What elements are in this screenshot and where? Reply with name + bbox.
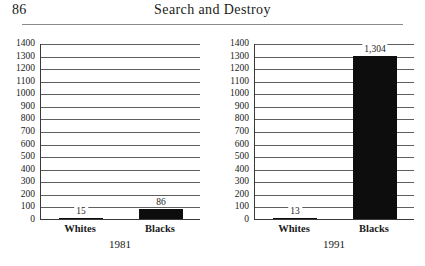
y-tick-label: 1000: [215, 89, 249, 99]
header-divider: [22, 24, 403, 25]
y-tick-label: 700: [1, 127, 35, 137]
chart-1981: 1400130012001100100090080070060050040030…: [2, 44, 207, 266]
y-axis-1991: 1400130012001100100090080070060050040030…: [216, 44, 252, 220]
plot-area-1981: 1586: [40, 44, 200, 220]
y-tick-label: 500: [215, 152, 249, 162]
plot-area-1991: 131,304: [254, 44, 414, 220]
y-tick-label: 600: [1, 140, 35, 150]
category-labels-1991: WhitesBlacks: [254, 222, 414, 238]
running-head-title: Search and Destroy: [0, 2, 425, 18]
y-tick-label: 1100: [1, 77, 35, 87]
y-tick-label: 1100: [215, 77, 249, 87]
bar-slot: 1,304: [353, 44, 397, 220]
bar-group-1981: 1586: [41, 44, 200, 220]
y-tick-label: 500: [1, 152, 35, 162]
bar-group-1991: 131,304: [255, 44, 414, 220]
bar-value-label: 15: [74, 206, 88, 216]
bar-slot: 15: [59, 44, 103, 220]
y-tick-label: 1400: [1, 39, 35, 49]
x-axis-line-1981: [41, 219, 200, 220]
y-tick-label: 300: [215, 177, 249, 187]
y-tick-label: 900: [215, 102, 249, 112]
bar-blacks: [353, 56, 397, 220]
y-tick-label: 100: [215, 202, 249, 212]
charts-row: 1400130012001100100090080070060050040030…: [0, 44, 425, 266]
category-label-blacks: Blacks: [334, 222, 414, 235]
chart-caption-1991: 1991: [254, 238, 414, 251]
y-tick-label: 1400: [215, 39, 249, 49]
x-axis-line-1991: [255, 219, 414, 220]
bar-value-label: 1,304: [362, 44, 387, 54]
category-label-blacks: Blacks: [120, 222, 200, 235]
y-tick-label: 0: [1, 215, 35, 225]
y-tick-label: 1300: [215, 52, 249, 62]
category-label-whites: Whites: [254, 222, 334, 235]
y-tick-label: 600: [215, 140, 249, 150]
bar-slot: 86: [139, 44, 183, 220]
y-tick-label: 0: [215, 215, 249, 225]
y-tick-label: 900: [1, 102, 35, 112]
y-tick-label: 100: [1, 202, 35, 212]
page-header: 86 Search and Destroy: [0, 0, 425, 30]
y-tick-label: 1300: [1, 52, 35, 62]
bar-value-label: 86: [154, 197, 168, 207]
y-tick-label: 800: [215, 114, 249, 124]
y-tick-label: 1200: [215, 64, 249, 74]
category-labels-1981: WhitesBlacks: [40, 222, 200, 238]
y-tick-label: 400: [1, 165, 35, 175]
y-tick-label: 700: [215, 127, 249, 137]
y-tick-label: 1000: [1, 89, 35, 99]
bar-slot: 13: [273, 44, 317, 220]
bar-value-label: 13: [288, 206, 302, 216]
chart-caption-1981: 1981: [40, 238, 200, 251]
chart-1991: 1400130012001100100090080070060050040030…: [216, 44, 421, 266]
y-tick-label: 200: [215, 190, 249, 200]
y-axis-1981: 1400130012001100100090080070060050040030…: [2, 44, 38, 220]
y-tick-label: 400: [215, 165, 249, 175]
category-label-whites: Whites: [40, 222, 120, 235]
y-tick-label: 800: [1, 114, 35, 124]
y-tick-label: 300: [1, 177, 35, 187]
y-tick-label: 1200: [1, 64, 35, 74]
y-tick-label: 200: [1, 190, 35, 200]
